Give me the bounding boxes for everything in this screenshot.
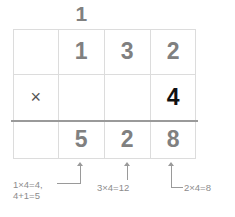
annotation-hundreds-line2: 4+1=5 [13,190,40,202]
cell-r2-c0 [13,120,58,159]
cell-r1-c3: 4 [150,74,196,120]
multiply-operator: × [13,74,58,120]
tens-connector-vertical [127,166,128,180]
cell-r0-c2: 3 [104,29,150,74]
annotation-ones: 2×4=8 [184,182,211,194]
hundreds-connector-horizontal [57,183,81,184]
ones-connector-vertical [171,166,172,187]
annotation-hundreds-line1: 1×4=4, [13,179,43,191]
cell-r0-c3: 2 [150,29,196,74]
annotation-tens: 3×4=12 [97,182,129,194]
cell-r1-c1 [58,74,104,120]
carry-digit: 1 [58,3,104,25]
cell-r2-c1: 5 [58,120,104,159]
hundreds-connector-vertical [80,166,81,183]
cell-r2-c3: 8 [150,120,196,159]
cell-r0-c0 [13,29,58,74]
ones-connector-horizontal [171,187,183,188]
multiplication-diagram: 1 1 3 2 × 4 5 2 8 1×4=4, 4+1=5 3×4=12 2×… [0,0,235,217]
cell-r2-c2: 2 [104,120,150,159]
cell-r0-c1: 1 [58,29,104,74]
cell-r1-c2 [104,74,150,120]
